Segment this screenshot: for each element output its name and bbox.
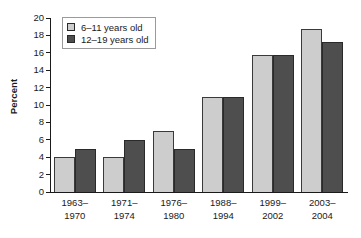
- bar-group: [298, 18, 348, 192]
- bar-series-1-cat-3: [223, 97, 244, 192]
- bar-series-1-cat-0: [75, 149, 96, 193]
- x-tick-label-line: 1971–: [100, 197, 150, 210]
- bar-group: [248, 18, 298, 192]
- x-tick-label: 1988–1994: [199, 197, 249, 222]
- x-tick-label-line: 1999–: [248, 197, 298, 210]
- legend: 6–11 years old12–19 years old: [62, 17, 156, 49]
- x-axis-line: [50, 192, 348, 193]
- y-tick-label: 18: [33, 29, 44, 40]
- bar-series-1-cat-1: [124, 140, 145, 192]
- y-axis-title-text: Percent: [9, 78, 20, 114]
- bar-group: [199, 18, 249, 192]
- x-tick-label-line: 2002: [248, 210, 298, 223]
- x-tick-label-line: 1994: [199, 210, 249, 223]
- bar-series-0-cat-5: [301, 29, 322, 192]
- bar-series-0-cat-1: [103, 157, 124, 192]
- y-tick-label: 12: [33, 82, 44, 93]
- legend-swatch-icon: [67, 23, 75, 31]
- bar-group: [149, 18, 199, 192]
- bar-series-1-cat-4: [273, 55, 294, 192]
- bar-chart-figure: Percent 02468101214161820 1963–19701971–…: [0, 0, 361, 238]
- y-tick-label: 6: [39, 134, 44, 145]
- bar-series-0-cat-2: [153, 131, 174, 192]
- legend-item-0: 6–11 years old: [67, 21, 149, 33]
- y-tick-label: 16: [33, 47, 44, 58]
- y-tick-label: 14: [33, 64, 44, 75]
- y-tick-label: 10: [33, 99, 44, 110]
- bar-series-0-cat-3: [202, 97, 223, 192]
- y-tick-label: 2: [39, 169, 44, 180]
- x-tick-label: 1999–2002: [248, 197, 298, 222]
- x-tick-label-line: 1980: [149, 210, 199, 223]
- x-tick-label-line: 1976–: [149, 197, 199, 210]
- legend-item-label: 6–11 years old: [81, 22, 143, 33]
- y-tick-label: 20: [33, 12, 44, 23]
- x-tick-label-line: 1988–: [199, 197, 249, 210]
- y-tick-label: 8: [39, 116, 44, 127]
- x-tick-label-line: 2004: [298, 210, 348, 223]
- y-tick-label: 4: [39, 151, 44, 162]
- bar-series-1-cat-5: [322, 42, 343, 193]
- bar-series-0-cat-0: [54, 157, 75, 192]
- bar-series-1-cat-2: [174, 149, 195, 193]
- x-tick-label: 2003–2004: [298, 197, 348, 222]
- x-tick-label-line: 1970: [50, 210, 100, 223]
- legend-swatch-icon: [67, 35, 75, 43]
- bar-series-0-cat-4: [252, 55, 273, 192]
- x-tick-label-line: 1974: [100, 210, 150, 223]
- x-tick-label: 1971–1974: [100, 197, 150, 222]
- x-tick-label-line: 1963–: [50, 197, 100, 210]
- x-tick-label: 1976–1980: [149, 197, 199, 222]
- legend-item-1: 12–19 years old: [67, 33, 149, 45]
- x-tick-label: 1963–1970: [50, 197, 100, 222]
- legend-item-label: 12–19 years old: [81, 34, 149, 45]
- x-tick-label-line: 2003–: [298, 197, 348, 210]
- y-axis-title: Percent: [4, 0, 24, 192]
- y-tick-label: 0: [39, 186, 44, 197]
